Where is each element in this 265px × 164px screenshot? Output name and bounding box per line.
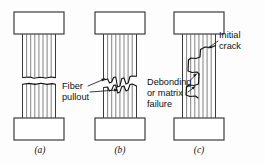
annotation-debonding-line3: failure [147, 99, 172, 109]
annotation-fiber-pullout: Fiber pullout [62, 78, 118, 102]
specimen-b-fibers-upper [108, 34, 133, 86]
figure-root: (a) [0, 0, 265, 164]
specimen-b: (b) [95, 12, 145, 156]
specimen-a-caption: (a) [34, 145, 45, 156]
specimen-a-bottom-grip [14, 118, 64, 140]
specimen-a-fibers-lower [27, 83, 52, 118]
specimen-b-top-grip [95, 12, 145, 34]
specimen-b-bottom-grip [95, 118, 145, 140]
annotation-initial-crack-line2: crack [219, 41, 241, 51]
specimen-a-top-grip [14, 12, 64, 34]
annotation-debonding-line2: or matrix [147, 88, 183, 98]
annotation-debonding: Debonding or matrix failure [147, 74, 197, 110]
specimen-a: (a) [14, 12, 64, 156]
specimen-b-caption: (b) [114, 145, 125, 156]
specimen-c-crack-step-2 [188, 60, 199, 74]
specimen-c-top-grip [174, 12, 224, 34]
specimen-a-fracture-upper [23, 77, 56, 78]
annotation-debonding-line1: Debonding [147, 77, 191, 87]
annotation-initial-crack-line1: Initial [219, 30, 240, 40]
annotation-fiber-pullout-line2: pullout [62, 92, 90, 102]
specimen-c-bottom-grip [174, 118, 224, 140]
specimen-c-caption: (c) [194, 145, 205, 156]
specimen-a-fibers-upper [27, 34, 52, 78]
annotation-fiber-pullout-line1: Fiber [62, 81, 83, 91]
composite-failure-diagram: (a) [0, 0, 265, 164]
